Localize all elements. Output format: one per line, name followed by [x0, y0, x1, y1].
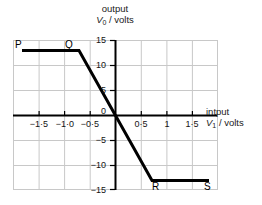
- x-axis-units: / volts: [216, 117, 243, 128]
- plot-canvas: [0, 0, 262, 205]
- point-label-s: S: [204, 181, 211, 192]
- y-axis-units: / volts: [106, 14, 133, 25]
- x-tick-label-1-5: 1·5: [177, 119, 207, 129]
- y-tick-label-neg10: −10: [80, 160, 106, 170]
- point-label-r: R: [152, 181, 159, 192]
- y-tick-label-neg5: −5: [80, 135, 106, 145]
- transfer-characteristic-figure: output V0 / volts intput V1 / volts 15 1…: [0, 0, 262, 205]
- y-tick-label-15: 15: [84, 35, 106, 45]
- y-tick-label-neg15: −15: [80, 185, 106, 195]
- x-axis-symbol: V1: [206, 117, 216, 128]
- y-tick-label-10: 10: [84, 60, 106, 70]
- x-axis-title: intput V1 / volts: [206, 106, 262, 129]
- y-axis-title-line2: V0 / volts: [63, 14, 167, 26]
- y-axis-title: output V0 / volts: [63, 3, 167, 26]
- y-axis-title-line1: output: [63, 3, 167, 14]
- y-tick-label-0: 0: [84, 106, 106, 116]
- x-axis-title-line1: intput: [206, 106, 262, 117]
- x-tick-label-neg0-5: −0·5: [72, 119, 108, 129]
- point-label-p: P: [15, 39, 22, 50]
- x-axis-title-line2: V1 / volts: [206, 117, 262, 129]
- y-tick-label-5: 5: [84, 85, 106, 95]
- y-axis-symbol: V0: [96, 14, 106, 25]
- point-label-q: Q: [65, 39, 73, 50]
